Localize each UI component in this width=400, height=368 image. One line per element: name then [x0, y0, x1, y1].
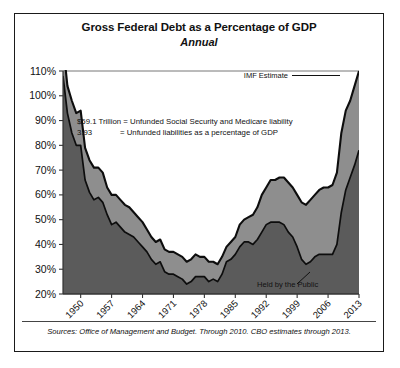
y-axis-tick-label: 30%	[35, 263, 56, 275]
x-axis-tick-label: 1964	[125, 298, 148, 321]
x-axis-tick-label: 1985	[217, 298, 240, 321]
x-axis-tick-label: 1950	[63, 298, 86, 321]
y-axis-tick-label: 20%	[35, 288, 56, 300]
unfunded-liability-line2-value: 3.93	[77, 128, 92, 137]
x-axis-tick-label: 1971	[156, 298, 179, 321]
annotation-unfunded-liability: $59.1 Trillion = Unfunded Social Securit…	[77, 117, 293, 137]
chart-plot-area: 110%100%90%80%70%60%50%40%30%20% 1950195…	[15, 14, 385, 353]
y-axis: 110%100%90%80%70%60%50%40%30%20%	[29, 65, 63, 300]
x-axis-tick-label: 1999	[279, 298, 302, 321]
area-chart-svg: 110%100%90%80%70%60%50%40%30%20% 1950195…	[15, 14, 385, 353]
unfunded-liability-line2-desc: = Unfunded liabilities as a percentage o…	[120, 128, 278, 137]
source-note: Sources: Office of Management and Budget…	[15, 327, 383, 336]
annotation-imf-estimate: IMF Estimate	[244, 71, 340, 80]
y-axis-tick-label: 90%	[35, 114, 56, 126]
held-by-public-label: Held by the Public	[257, 280, 318, 289]
x-axis-tick-label: 1978	[187, 298, 210, 321]
y-axis-tick-label: 40%	[35, 238, 56, 250]
y-axis-tick-label: 80%	[35, 139, 56, 151]
imf-estimate-label: IMF Estimate	[244, 71, 288, 80]
x-axis-tick-label: 2006	[310, 298, 333, 321]
y-axis-tick-label: 50%	[35, 213, 56, 225]
y-axis-tick-label: 110%	[30, 65, 56, 77]
y-axis-tick-label: 100%	[29, 89, 56, 101]
x-axis: 1950195719641971197819851992199920062013	[63, 294, 364, 320]
y-axis-tick-label: 60%	[35, 188, 56, 200]
chart-frame: Gross Federal Debt as a Percentage of GD…	[14, 13, 384, 352]
source-divider	[22, 321, 376, 322]
x-axis-tick-label: 2013	[341, 298, 364, 321]
x-axis-tick-label: 1957	[94, 298, 117, 321]
y-axis-tick-label: 70%	[35, 164, 56, 176]
unfunded-liability-line1: $59.1 Trillion = Unfunded Social Securit…	[77, 117, 293, 126]
x-axis-tick-label: 1992	[248, 298, 271, 321]
